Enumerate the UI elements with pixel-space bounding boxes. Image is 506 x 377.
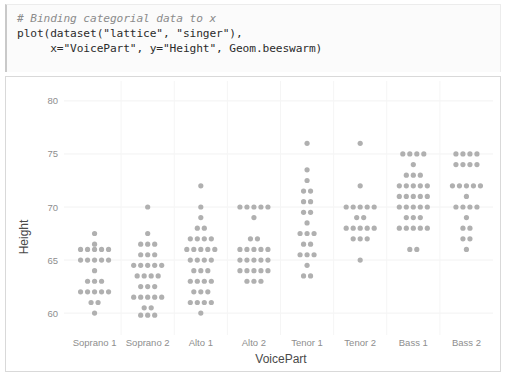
data-point: [205, 289, 210, 294]
data-point: [145, 295, 150, 300]
data-point: [308, 273, 313, 278]
data-point: [138, 313, 143, 318]
data-point: [202, 300, 207, 305]
data-point: [407, 247, 412, 252]
data-point: [191, 247, 196, 252]
data-point: [85, 279, 90, 284]
y-tick-label-75: 75: [47, 148, 58, 159]
data-point: [344, 204, 349, 209]
data-point: [418, 226, 423, 231]
data-point: [92, 257, 97, 262]
data-point: [358, 141, 363, 146]
data-point: [149, 273, 154, 278]
data-point: [142, 273, 147, 278]
x-tick-label-alto-1: Alto 1: [189, 337, 213, 348]
data-point: [418, 194, 423, 199]
data-point: [251, 247, 256, 252]
data-point: [418, 215, 423, 220]
data-point: [304, 178, 309, 183]
data-point: [198, 268, 203, 273]
data-point: [404, 183, 409, 188]
data-point: [397, 183, 402, 188]
data-point: [258, 247, 263, 252]
data-point: [354, 215, 359, 220]
data-point: [202, 226, 207, 231]
data-point: [301, 188, 306, 193]
data-point: [467, 162, 472, 167]
data-point: [414, 151, 419, 156]
y-tick-label-65: 65: [47, 255, 58, 266]
data-point: [106, 257, 111, 262]
data-point: [301, 273, 306, 278]
data-point: [407, 151, 412, 156]
data-point: [460, 204, 465, 209]
data-point: [411, 215, 416, 220]
data-point: [99, 247, 104, 252]
data-point: [464, 194, 469, 199]
data-point: [85, 247, 90, 252]
data-point: [453, 151, 458, 156]
data-point: [464, 215, 469, 220]
code-cell[interactable]: # Binding categorial data to x plot(data…: [5, 4, 501, 72]
data-point: [474, 204, 479, 209]
data-point: [152, 242, 157, 247]
data-point: [92, 231, 97, 236]
data-point: [106, 289, 111, 294]
data-point: [191, 268, 196, 273]
data-point: [404, 194, 409, 199]
data-point: [145, 252, 150, 257]
data-point: [474, 162, 479, 167]
data-point: [453, 204, 458, 209]
data-point: [258, 279, 263, 284]
code-line-2: x="VoicePart", y="Height", Geom.beeswarm…: [17, 41, 500, 56]
data-point: [138, 252, 143, 257]
data-point: [202, 257, 207, 262]
data-point: [351, 236, 356, 241]
data-point: [404, 226, 409, 231]
data-point: [450, 183, 455, 188]
data-point: [467, 151, 472, 156]
data-point: [411, 173, 416, 178]
data-point: [251, 268, 256, 273]
data-point: [244, 279, 249, 284]
data-point: [372, 204, 377, 209]
data-point: [92, 310, 97, 315]
x-axis-tick-labels: Soprano 1Soprano 2Alto 1Alto 2Tenor 1Ten…: [73, 337, 481, 348]
data-point: [358, 257, 363, 262]
data-point: [425, 194, 430, 199]
data-point: [159, 263, 164, 268]
data-point: [464, 247, 469, 252]
data-point: [358, 204, 363, 209]
data-point: [212, 247, 217, 252]
data-point: [138, 242, 143, 247]
data-point: [251, 204, 256, 209]
data-point: [411, 204, 416, 209]
data-point: [205, 247, 210, 252]
data-point: [138, 284, 143, 289]
data-point: [397, 204, 402, 209]
data-point: [414, 247, 419, 252]
data-point: [421, 151, 426, 156]
data-point: [304, 252, 309, 257]
data-point: [404, 204, 409, 209]
data-point: [258, 268, 263, 273]
y-axis-tick-labels: 6065707580: [47, 95, 58, 318]
data-point: [99, 257, 104, 262]
data-point: [301, 242, 306, 247]
data-point: [457, 183, 462, 188]
data-point: [195, 279, 200, 284]
data-point: [358, 183, 363, 188]
data-point: [297, 252, 302, 257]
data-point: [425, 204, 430, 209]
data-point: [460, 236, 465, 241]
data-point: [467, 226, 472, 231]
data-point: [258, 204, 263, 209]
data-point: [248, 236, 253, 241]
data-point: [92, 268, 97, 273]
beeswarm-plot: 6065707580 Soprano 1Soprano 2Alto 1Alto …: [6, 77, 500, 371]
data-point: [78, 289, 83, 294]
data-point: [244, 268, 249, 273]
data-point: [265, 204, 270, 209]
y-tick-label-70: 70: [47, 202, 58, 213]
data-point: [358, 236, 363, 241]
